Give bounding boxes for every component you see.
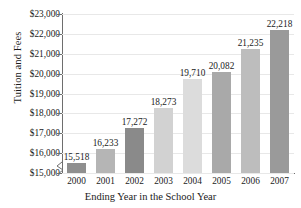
y-tick-label: $19,000 <box>14 89 60 99</box>
x-tick-label: 2007 <box>270 176 289 186</box>
y-tick-mark <box>57 34 62 35</box>
bar-value-label: 18,273 <box>151 97 177 107</box>
y-tick-mark <box>57 94 62 95</box>
y-tick-label: $22,000 <box>14 29 60 39</box>
y-tick-mark <box>57 74 62 75</box>
bar-value-label: 16,233 <box>93 138 119 148</box>
bar: 17,272 <box>125 128 144 173</box>
bar-value-label: 19,710 <box>180 68 206 78</box>
y-tick-mark <box>57 14 62 15</box>
y-tick-mark <box>57 113 62 114</box>
y-axis-tick-labels: $15,000$16,000$17,000$18,000$19,000$20,0… <box>14 8 60 172</box>
y-tick-mark <box>57 54 62 55</box>
tuition-and-fees-bar-chart: Tuition and Fees $15,000$16,000$17,000$1… <box>0 0 301 208</box>
y-tick-label: $18,000 <box>14 108 60 118</box>
y-tick-label: $20,000 <box>14 69 60 79</box>
x-tick-label: 2005 <box>212 176 231 186</box>
y-tick-mark <box>57 153 62 154</box>
bar-value-label: 22,218 <box>267 19 293 29</box>
gridline <box>62 173 294 174</box>
bar: 21,235 <box>241 49 260 173</box>
y-tick-mark <box>57 173 62 174</box>
gridline <box>62 34 294 35</box>
y-tick-label: $21,000 <box>14 49 60 59</box>
x-tick-label: 2006 <box>241 176 260 186</box>
bar: 19,710 <box>183 79 202 173</box>
bar-value-label: 17,272 <box>122 117 148 127</box>
x-tick-label: 2001 <box>96 176 115 186</box>
x-tick-label: 2002 <box>125 176 144 186</box>
x-tick-label: 2003 <box>154 176 173 186</box>
y-tick-label: $17,000 <box>14 128 60 138</box>
x-tick-label: 2000 <box>67 176 86 186</box>
y-tick-mark <box>57 133 62 134</box>
y-tick-label: $15,000 <box>14 168 60 178</box>
bar-value-label: 21,235 <box>238 38 264 48</box>
x-tick-label: 2004 <box>183 176 202 186</box>
bar: 20,082 <box>212 72 231 173</box>
y-tick-label: $23,000 <box>14 9 60 19</box>
bar: 16,233 <box>96 149 115 174</box>
bar: 18,273 <box>154 108 173 173</box>
bar-value-label: 20,082 <box>209 61 235 71</box>
y-tick-label: $16,000 <box>14 148 60 158</box>
gridline <box>62 14 294 15</box>
bar: 15,518 <box>67 163 86 173</box>
x-axis-tick-labels: 20002001200220032004200520062007 <box>62 176 294 190</box>
plot-area: 15,51816,23317,27218,27319,71020,08221,2… <box>62 14 294 173</box>
x-axis-title: Ending Year in the School Year <box>0 191 301 202</box>
bar: 22,218 <box>270 30 289 173</box>
